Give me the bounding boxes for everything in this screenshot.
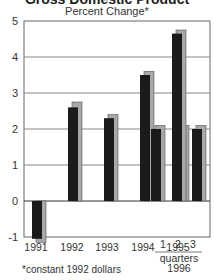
y-tick-label: 5	[12, 15, 18, 27]
quarter-label: 2	[175, 238, 181, 250]
bar-chart: -101234519911992199319941995123quarters1…	[0, 0, 214, 280]
bar-black	[104, 118, 114, 201]
bar-black	[192, 129, 202, 201]
bar-black	[140, 75, 150, 201]
bar-black	[151, 129, 161, 201]
y-tick-label: 1	[12, 159, 18, 171]
bar-black	[172, 34, 182, 201]
y-tick-label: 3	[12, 87, 18, 99]
y-tick-label: 4	[12, 51, 18, 63]
x-tick-label: 1992	[60, 241, 84, 253]
y-tick-label: -1	[8, 231, 18, 243]
footnote: *constant 1992 dollars	[22, 264, 121, 275]
y-tick-label: 0	[12, 195, 18, 207]
x-tick-label: 1993	[95, 241, 119, 253]
bar-black	[32, 201, 42, 239]
quarter-label: 1	[160, 238, 166, 250]
bar-black	[68, 107, 78, 201]
quarter-label: 3	[190, 238, 196, 250]
x-tick-label: 1994	[131, 241, 155, 253]
y-tick-label: 2	[12, 123, 18, 135]
year-label: 1996	[167, 262, 191, 274]
x-tick-label: 1991	[24, 241, 48, 253]
